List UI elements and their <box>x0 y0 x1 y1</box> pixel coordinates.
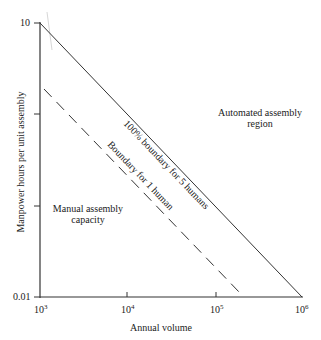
manual-capacity-label: Manual assembly capacity <box>48 203 128 225</box>
automated-region-label: Automated assembly region <box>210 107 310 129</box>
x-axis-label: Annual volume <box>130 322 192 333</box>
y-axis-label: Manpower hours per unit assembly <box>15 91 26 232</box>
x-tick-label-1e5: 105 <box>210 302 224 315</box>
y-tick-label-0.01: 0.01 <box>13 291 31 302</box>
x-tick-label-1e4: 104 <box>121 302 135 315</box>
chart-canvas: 100% boundary for 5 humans Boundary for … <box>0 0 321 340</box>
y-tick-label-10: 10 <box>20 17 30 28</box>
x-tick-label-1e6: 106 <box>295 302 309 315</box>
boundary-1-human-label: Boundary for 1 human <box>106 139 177 212</box>
x-tick-label-1e3: 103 <box>34 302 48 315</box>
